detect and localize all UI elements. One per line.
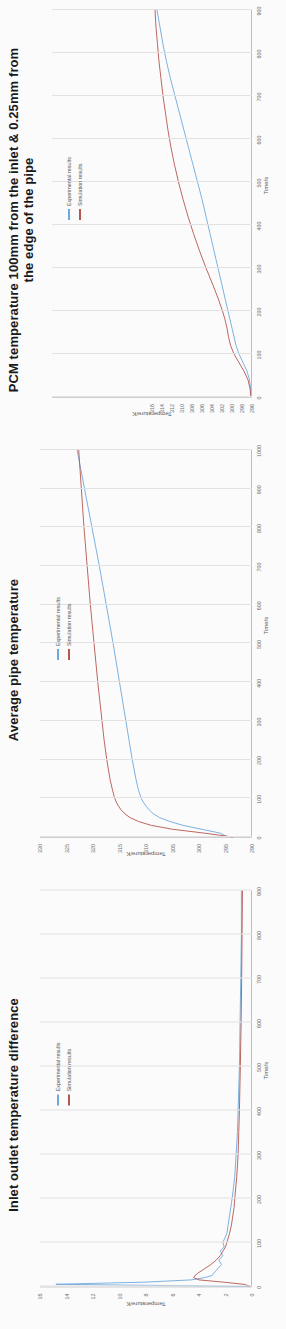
gridline (40, 720, 252, 721)
x-tick-label: 0 (256, 397, 262, 400)
y-tick-label: 308 (189, 404, 195, 440)
y-axis-title: Temperature/K (126, 1300, 165, 1306)
x-tick-label: 300 (256, 265, 262, 274)
x-tick-label: 300 (256, 717, 262, 726)
y-tick-label: 14 (64, 1293, 70, 1329)
x-tick-label: 200 (256, 756, 262, 765)
x-tick-label: 500 (256, 179, 262, 188)
y-tick-label: 8 (143, 1293, 149, 1329)
y-tick-label: 6 (170, 1293, 176, 1329)
y-tick-label: 305 (170, 844, 176, 880)
x-axis-title: Time/s (263, 177, 269, 195)
x-tick-label: 0 (256, 837, 262, 840)
legend-label: Experimental results (55, 1042, 61, 1091)
legend-item: Simulation results (66, 1042, 72, 1105)
x-tick-label: 900 (256, 7, 262, 16)
chart-title-pcm-temperature: PCM temperature 100mm from the inlet & 0… (6, 0, 37, 440)
x-axis-line (251, 450, 252, 837)
chart-title-line-1: Average pipe temperature (6, 440, 21, 880)
gridline (40, 836, 252, 837)
gridline (40, 1197, 252, 1198)
y-tick-label: 16 (37, 1293, 43, 1329)
x-tick-label: 400 (256, 1107, 262, 1116)
y-tick-label: 2 (223, 1293, 229, 1329)
gridline (40, 759, 252, 760)
x-tick-label: 800 (256, 50, 262, 59)
x-tick-label: 600 (256, 601, 262, 610)
x-tick-label: 100 (256, 795, 262, 804)
chart-title-inlet-outlet-temperature-difference: Inlet outlet temperature difference (6, 880, 21, 1329)
chart-title-average-pipe-temperature: Average pipe temperature (6, 440, 21, 880)
legend-item: Simulation results (66, 597, 72, 660)
y-tick-label: 295 (223, 844, 229, 880)
y-tick-label: 298 (239, 404, 245, 440)
legend-label: Simulation results (66, 603, 72, 646)
legend-pcm-temperature: Experimental resultsSimulation results (66, 157, 83, 220)
gridline (40, 1021, 252, 1022)
y-tick-label: 316 (149, 404, 155, 440)
y-tick-label: 290 (249, 844, 255, 880)
legend-swatch (68, 649, 70, 660)
series-line-simulation-results (79, 450, 233, 837)
x-tick-label: 100 (256, 351, 262, 360)
gridline (40, 933, 252, 934)
y-tick-label: 312 (169, 404, 175, 440)
y-tick-label: 10 (117, 1293, 123, 1329)
y-tick-label: 320 (90, 844, 96, 880)
legend-label: Simulation results (66, 1048, 72, 1091)
gridline (40, 526, 252, 527)
gridline (52, 396, 252, 397)
legend-swatch (79, 209, 81, 220)
y-tick-label: 4 (196, 1293, 202, 1329)
x-tick-label: 100 (256, 1239, 262, 1248)
gridline (40, 565, 252, 566)
chart-title-line-2: the edge of the pipe (21, 0, 36, 440)
legend-label: Experimental results (66, 157, 72, 206)
legend-swatch (68, 209, 70, 220)
x-axis-title: Time/s (263, 617, 269, 635)
gridline (40, 1285, 252, 1286)
x-tick-label: 300 (256, 1151, 262, 1160)
x-tick-label: 700 (256, 93, 262, 102)
x-tick-label: 800 (256, 931, 262, 940)
chart-panel-average-pipe-temperature: Average pipe temperature 010020030040050… (0, 440, 286, 880)
chart-pcm-temperature: PCM temperature 100mm from the inlet & 0… (0, 0, 286, 440)
chart-title-line-1: PCM temperature 100mm from the inlet & 0… (6, 0, 21, 440)
gridline (40, 1241, 252, 1242)
x-tick-label: 700 (256, 975, 262, 984)
legend-item: Experimental results (66, 157, 72, 220)
y-axis-title: Temperature/K (132, 411, 171, 417)
series-line-experimental-results (56, 890, 249, 1286)
legend-item: Experimental results (55, 597, 61, 660)
y-tick-label: 12 (90, 1293, 96, 1329)
gridline (52, 224, 252, 225)
legend-inlet-outlet-temperature-difference: Experimental resultsSimulation results (55, 1042, 72, 1105)
y-tick-label: 306 (199, 404, 205, 440)
chart-average-pipe-temperature: Average pipe temperature 010020030040050… (0, 440, 286, 880)
x-tick-label: 400 (256, 222, 262, 231)
gridline (52, 52, 252, 53)
y-tick-label: 325 (64, 844, 70, 880)
legend-label: Simulation results (77, 163, 83, 206)
y-axis-title: Temperature/K (126, 851, 165, 857)
x-tick-label: 200 (256, 1195, 262, 1204)
x-tick-label: 500 (256, 640, 262, 649)
legend-swatch (57, 1094, 59, 1105)
y-tick-label: 0 (249, 1293, 255, 1329)
y-tick-label: 302 (219, 404, 225, 440)
x-tick-label: 600 (256, 136, 262, 145)
chart-panel-inlet-outlet-temperature-difference: Inlet outlet temperature difference 0100… (0, 880, 286, 1329)
x-tick-label: 400 (256, 679, 262, 688)
gridline (52, 95, 252, 96)
figure-page: PCM temperature 100mm from the inlet & 0… (0, 0, 286, 1329)
x-tick-label: 1000 (256, 445, 262, 457)
gridline (40, 977, 252, 978)
gridline (40, 449, 252, 450)
legend-average-pipe-temperature: Experimental resultsSimulation results (55, 597, 72, 660)
legend-item: Simulation results (77, 157, 83, 220)
x-tick-label: 600 (256, 1019, 262, 1028)
y-tick-label: 330 (37, 844, 43, 880)
series-line-experimental-results (77, 450, 228, 837)
gridline (40, 889, 252, 890)
gridline (40, 488, 252, 489)
